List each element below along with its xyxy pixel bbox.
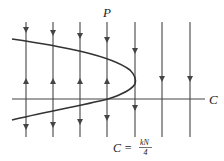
annotation-lhs: C =	[113, 141, 132, 155]
bifurcation-annotation: C = kN 4	[113, 138, 152, 157]
equilibrium-curve	[12, 39, 135, 120]
arrow-down-icon	[159, 76, 165, 82]
arrow-down-icon	[132, 48, 138, 54]
c-axis-label: C	[209, 92, 218, 107]
arrow-down-icon	[77, 119, 83, 125]
annotation-denominator: 4	[144, 148, 148, 157]
arrow-up-icon	[104, 78, 110, 84]
flow-arrows	[23, 27, 193, 130]
arrow-up-icon	[50, 78, 56, 84]
p-axis-label: P	[102, 5, 111, 20]
annotation-numerator: kN	[140, 138, 150, 147]
arrow-down-icon	[77, 33, 83, 39]
arrow-down-icon	[187, 76, 193, 82]
phase-diagram: P C C = kN 4	[0, 0, 224, 161]
arrow-down-icon	[50, 122, 56, 128]
arrow-up-icon	[23, 78, 29, 84]
arrow-down-icon	[23, 27, 29, 33]
arrow-down-icon	[132, 105, 138, 111]
arrow-down-icon	[104, 37, 110, 43]
arrow-up-icon	[77, 78, 83, 84]
arrow-down-icon	[23, 124, 29, 130]
arrow-down-icon	[50, 30, 56, 36]
arrow-down-icon	[104, 115, 110, 121]
